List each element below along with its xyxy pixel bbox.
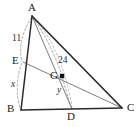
segment-ab	[21, 16, 32, 110]
measure-label-eb: x	[11, 80, 15, 90]
vertex-label-a: A	[28, 2, 36, 13]
vertex-label-e: E	[12, 55, 19, 66]
segment-ac	[32, 16, 122, 108]
measure-arc-eb	[17, 64, 21, 110]
vertex-label-g: G	[50, 70, 58, 81]
measure-label-gd: y	[57, 86, 61, 96]
segment-ec	[23, 62, 122, 108]
measure-label-ae: 11	[12, 34, 21, 44]
vertex-label-c: C	[127, 102, 134, 113]
figure-canvas	[0, 0, 140, 127]
geometry-figure: A B C D E G 11 x 24 y	[0, 0, 140, 127]
point-marker-g	[60, 74, 64, 78]
measure-arc-ag	[33, 18, 62, 75]
vertex-label-d: D	[67, 111, 75, 122]
measure-label-ag: 24	[58, 56, 68, 66]
cevian-group	[23, 16, 122, 109]
vertex-label-b: B	[7, 103, 14, 114]
triangle-abc	[21, 16, 122, 110]
